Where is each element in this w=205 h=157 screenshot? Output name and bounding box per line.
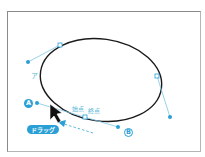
point-b-badge: B xyxy=(124,128,133,137)
start-point-label: 始点 xyxy=(72,106,84,112)
segment-label: ア xyxy=(31,73,38,80)
handle-dot-a[interactable] xyxy=(35,101,39,105)
handle-dot-right[interactable] xyxy=(168,115,172,119)
drag-arrow-line xyxy=(64,124,93,133)
anchor-bottom[interactable] xyxy=(83,115,87,119)
handle-line-top-left xyxy=(28,45,60,62)
handle-dot-top-left[interactable] xyxy=(26,60,30,64)
drag-badge: ドラッグ xyxy=(27,125,59,134)
anchor-top-left[interactable] xyxy=(58,43,62,47)
handle-dot-b[interactable] xyxy=(116,125,120,129)
point-a-badge: A xyxy=(24,99,33,108)
diagram-canvas: ア 始点 終点 A B ドラッグ xyxy=(0,0,205,157)
end-point-label: 終点 xyxy=(88,108,100,114)
anchor-right[interactable] xyxy=(155,74,159,78)
